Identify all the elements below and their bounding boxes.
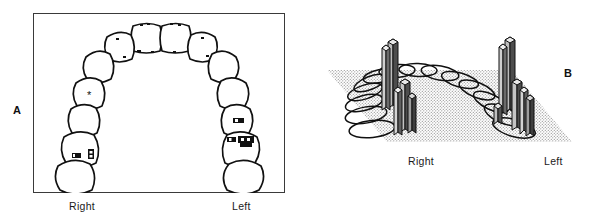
- tooth-l7: [223, 160, 263, 193]
- panel-a-left-label: Left: [232, 200, 251, 212]
- panel-a-right-label: Right: [69, 200, 95, 212]
- mark-bar: [241, 138, 244, 141]
- figure-root: A: [0, 0, 591, 223]
- panel-a-label: A: [13, 104, 21, 116]
- mark-bar: [235, 119, 238, 122]
- tooth-r7: [55, 160, 94, 193]
- panel-b: B: [300, 0, 591, 223]
- tooth-r1: [131, 24, 162, 54]
- mark-bar: [73, 154, 75, 157]
- mark-bar: [90, 151, 93, 154]
- mark-bar: [90, 155, 93, 158]
- mark-bar: [233, 118, 244, 123]
- panel-b-left-label: Left: [544, 155, 563, 167]
- asterisk-marker: *: [87, 89, 92, 101]
- mark-bar: [240, 143, 252, 147]
- panel-a: A: [0, 0, 300, 223]
- mark-bar: [238, 136, 254, 143]
- panel-b-right-label: Right: [408, 155, 434, 167]
- dental-arch-diagram: *: [33, 13, 285, 193]
- mark-bar: [229, 138, 232, 141]
- mark-bar: [247, 138, 250, 141]
- tooth-l1: [160, 24, 191, 54]
